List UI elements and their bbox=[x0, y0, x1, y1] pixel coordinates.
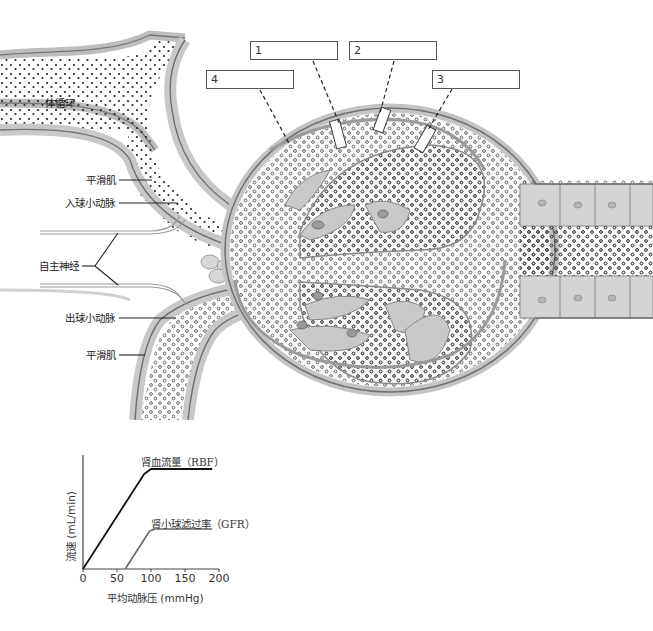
x-tick-0: 0 bbox=[80, 572, 87, 585]
x-axis-label: 平均动脉压 (mmHg) bbox=[107, 590, 204, 605]
autoregulation-chart: 肾血流量（RBF） 肾小球滤过率（GFR） 0 50 100 150 200 平… bbox=[60, 440, 260, 631]
gfr-series-line bbox=[125, 529, 212, 569]
renal-autoregulation-figure: 体循环 平滑肌 入球小动脉 自主神经 出球小动脉 平滑肌 1 2 3 4 bbox=[0, 0, 653, 631]
label-smooth-muscle-bottom: 平滑肌 bbox=[86, 349, 116, 361]
x-tick-150: 150 bbox=[175, 572, 196, 585]
gfr-series-label: 肾小球滤过率（GFR） bbox=[151, 516, 255, 531]
blank-box-1[interactable]: 1 bbox=[250, 41, 338, 60]
x-tick-100: 100 bbox=[141, 572, 162, 585]
blank-box-4[interactable]: 4 bbox=[206, 70, 294, 89]
label-smooth-muscle-top: 平滑肌 bbox=[86, 174, 116, 186]
box-number: 2 bbox=[354, 44, 361, 57]
blank-box-2[interactable]: 2 bbox=[349, 41, 437, 60]
blank-box-3[interactable]: 3 bbox=[432, 70, 520, 89]
y-axis-label: 流速 (mL/min) bbox=[63, 491, 78, 562]
x-tick-50: 50 bbox=[110, 572, 124, 585]
label-systemic-circulation: 体循环 bbox=[45, 97, 75, 109]
label-autonomic-nerve: 自主神经 bbox=[39, 260, 79, 272]
box-number: 1 bbox=[255, 44, 262, 57]
label-efferent-arteriole: 出球小动脉 bbox=[65, 312, 115, 324]
box-number: 4 bbox=[211, 73, 218, 86]
x-tick-200: 200 bbox=[209, 572, 230, 585]
rbf-series-label: 肾血流量（RBF） bbox=[141, 454, 224, 469]
box-number: 3 bbox=[437, 73, 444, 86]
label-afferent-arteriole: 入球小动脉 bbox=[65, 197, 115, 209]
proximal-tubule bbox=[520, 180, 653, 318]
